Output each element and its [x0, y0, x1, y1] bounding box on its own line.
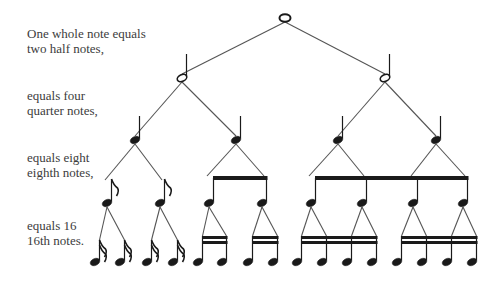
note-flag: [112, 179, 119, 196]
eighth-beam: [213, 176, 268, 180]
note-flag: [165, 179, 172, 196]
tree-branch: [285, 22, 385, 74]
sixteenth-beam: [252, 241, 279, 244]
whole-note-icon: [280, 14, 291, 22]
tree-branch: [203, 207, 210, 236]
tree-branch: [253, 207, 263, 236]
tree-branch: [452, 207, 464, 236]
tree-branch: [152, 207, 161, 240]
tree-branch: [160, 207, 178, 240]
sixteenth-beam: [401, 241, 478, 244]
sixteenth-beam: [401, 236, 478, 239]
tree-branch: [402, 207, 414, 236]
tree-branch: [135, 144, 162, 180]
sixteenth-beam: [252, 236, 279, 239]
tree-branch: [338, 144, 364, 176]
tree-branch: [436, 144, 465, 176]
tree-branch: [413, 207, 427, 236]
tree-branch: [262, 207, 278, 236]
tree-branch: [105, 144, 135, 180]
eighth-beam: [315, 176, 469, 180]
tree-branch: [311, 207, 327, 236]
tree-branch: [411, 144, 436, 176]
tree-branch: [362, 207, 377, 236]
tree-branch: [338, 82, 385, 136]
tree-branch: [107, 207, 125, 240]
tree-branch: [182, 82, 236, 136]
tree-branch: [385, 82, 436, 136]
tree-branch: [309, 144, 338, 176]
tree-branch: [236, 144, 264, 176]
tree-branch: [182, 22, 285, 74]
tree-branch: [302, 207, 312, 236]
tree-branch: [463, 207, 477, 236]
sixteenth-beam: [202, 241, 228, 244]
sixteenth-beam: [301, 241, 378, 244]
tree-branch: [100, 207, 108, 240]
tree-branch: [352, 207, 363, 236]
sixteenth-beam: [202, 236, 228, 239]
tree-branch: [209, 207, 227, 236]
tree-branch: [135, 82, 182, 136]
note-value-tree-diagram: [0, 0, 502, 285]
tree-branch: [207, 144, 236, 176]
sixteenth-beam: [301, 236, 378, 239]
